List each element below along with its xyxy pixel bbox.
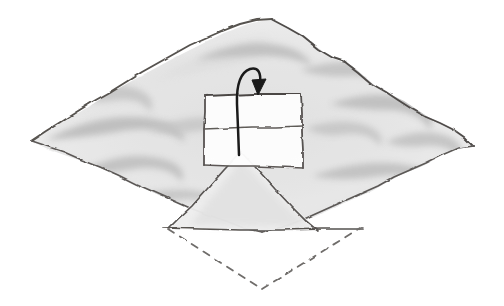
overlay-box-fill	[204, 94, 303, 168]
overlay-box-left-edge	[204, 96, 205, 165]
overlay-box	[204, 94, 303, 168]
dashed-edge-left	[168, 229, 262, 289]
dashed-projected-edges	[168, 228, 360, 289]
figure-root	[0, 0, 504, 306]
dashed-edge-right	[262, 228, 360, 289]
terrain-sketch-illustration	[0, 0, 504, 306]
